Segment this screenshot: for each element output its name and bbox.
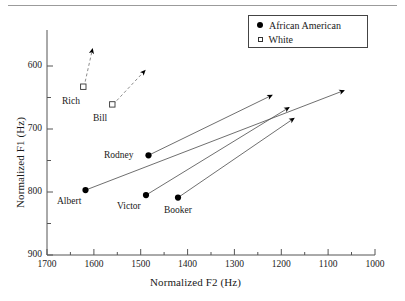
legend: African American White [248,15,368,48]
x-tick-label-1100: 1100 [311,259,345,269]
plot-axes [47,30,375,255]
trajectory-albert [86,91,345,191]
x-axis-title: Normalized F2 (Hz) [150,276,241,288]
x-tick-label-1400: 1400 [171,259,205,269]
x-tick-label-1300: 1300 [217,259,251,269]
point-albert [82,187,88,193]
point-booker [175,195,181,201]
aa-trajectories [86,91,345,198]
x-tick-label-1700: 1700 [30,259,64,269]
point-label-booker: Booker [164,205,192,215]
point-label-rodney: Rodney [104,150,134,160]
filled-circle-icon [257,22,263,28]
trajectory-rich [84,49,93,87]
y-axis-ticks [47,66,53,255]
point-label-bill: Bill [93,113,107,123]
x-tick-label-1600: 1600 [77,259,111,269]
point-bill [110,102,115,107]
y-tick-label-800: 800 [14,186,42,196]
x-axis-ticks [47,249,375,255]
y-tick-label-700: 700 [14,123,42,133]
legend-item-african-american: African American [257,18,341,32]
point-rich [81,84,86,89]
legend-item-white: White [257,32,293,46]
point-label-rich: Rich [62,96,80,106]
figure-page: Normalized F1 (Hz) Normalized F2 (Hz) 60… [0,0,405,301]
y-tick-label-600: 600 [14,60,42,70]
point-rodney [145,152,151,158]
trajectory-victor [146,108,289,196]
legend-label-african-american: African American [269,20,341,31]
x-tick-label-1000: 1000 [358,259,392,269]
white-trajectories [84,49,145,105]
point-label-albert: Albert [57,196,81,206]
open-square-icon [258,37,263,42]
trajectory-bill [113,71,145,105]
trajectory-booker [178,118,294,197]
x-tick-label-1500: 1500 [124,259,158,269]
point-victor [143,192,149,198]
point-label-victor: Victor [117,201,141,211]
legend-label-white: White [269,34,293,45]
x-tick-label-1200: 1200 [264,259,298,269]
y-tick-label-900: 900 [14,249,42,259]
